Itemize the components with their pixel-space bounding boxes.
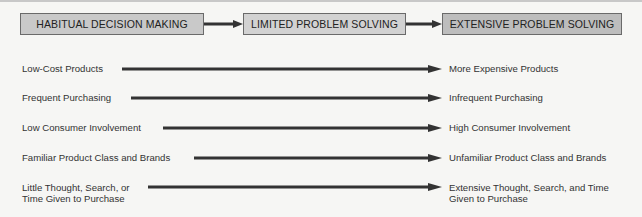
continuum-arrow-icon [194,154,442,162]
continuum-from-label: Familiar Product Class and Brands [22,152,170,163]
continuum-arrow-icon [163,124,442,132]
stage-habitual-decision-making: HABITUAL DECISION MAKING [20,13,204,35]
continuum-from-label: Low Consumer Involvement [22,122,141,133]
continuum-to-line2: Given to Purchase [449,193,609,204]
continuum-arrow-icon [122,65,442,73]
stage-arrow-icon [406,20,442,28]
continuum-from-line2: Time Given to Purchase [22,193,130,204]
continuum-to-label: More Expensive Products [449,63,558,74]
continuum-from-label: Frequent Purchasing [22,92,111,103]
continuum-from-line1: Little Thought, Search, or [22,182,130,193]
continuum-arrow-icon [131,94,442,102]
stage-label: EXTENSIVE PROBLEM SOLVING [450,18,615,30]
stage-label: HABITUAL DECISION MAKING [36,18,187,30]
stage-label: LIMITED PROBLEM SOLVING [251,18,398,30]
continuum-to-label: Unfamiliar Product Class and Brands [449,152,606,163]
top-border [0,0,642,2]
continuum-arrow-icon [148,183,442,191]
stage-arrow-icon [204,20,243,28]
stage-extensive-problem-solving: EXTENSIVE PROBLEM SOLVING [442,13,622,35]
continuum-to-line1: Extensive Thought, Search, and Time [449,182,609,193]
continuum-to-label: High Consumer Involvement [449,122,570,133]
stage-limited-problem-solving: LIMITED PROBLEM SOLVING [243,13,406,35]
continuum-to-label: Extensive Thought, Search, and Time Give… [449,182,609,204]
continuum-from-label: Low-Cost Products [22,63,103,74]
continuum-from-label: Little Thought, Search, or Time Given to… [22,182,130,204]
continuum-to-label: Infrequent Purchasing [449,92,543,103]
